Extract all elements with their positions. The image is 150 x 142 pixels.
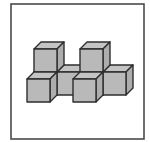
cube-front-bottom-col0 (27, 72, 57, 102)
cube-back-top-col0 (34, 42, 64, 72)
cube-front-face (103, 72, 126, 95)
cube-front-face (80, 49, 103, 72)
cube-back-top-col2 (80, 42, 110, 72)
cube-front-face (34, 49, 57, 72)
cube-back-bottom-col3 (103, 65, 133, 95)
cube-front-face (73, 79, 96, 102)
cube-figure (0, 0, 150, 142)
cube-front-bottom-col2 (73, 72, 103, 102)
cube-front-face (27, 79, 50, 102)
cube-group (27, 42, 133, 102)
